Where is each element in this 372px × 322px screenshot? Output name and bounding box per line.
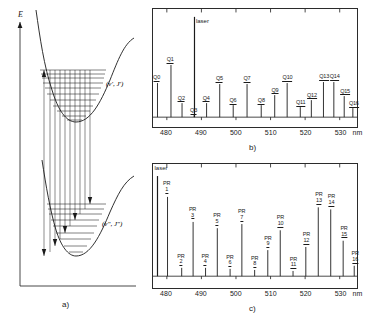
peak-number: Q12 <box>307 93 317 100</box>
peak-number: Q9 <box>271 88 278 95</box>
peak-label: PR6 <box>226 255 233 268</box>
panel-c-axis-labels: 480490500510520530nm <box>152 290 358 304</box>
panel-a-caption: a) <box>62 300 69 309</box>
peak-label: Q11 <box>296 100 305 107</box>
peak-label: PR8 <box>251 256 258 269</box>
peak-label: PR9 <box>264 236 271 249</box>
peak-label: PR1 <box>163 181 170 194</box>
peak-label: PR12 <box>303 232 310 245</box>
peak-number: Q8 <box>258 98 265 105</box>
x-tick-label: 520 <box>300 290 312 297</box>
peak-number: 5 <box>216 219 219 226</box>
peak-number: 8 <box>253 261 256 268</box>
panel-a-potential-curves: (v', J') (v", J") <box>14 8 140 294</box>
peak-label: Q0 <box>153 75 160 82</box>
peak-number: 14 <box>329 200 335 207</box>
peak-number: 9 <box>266 241 269 248</box>
peak-number: 11 <box>291 262 296 269</box>
peak-number: 10 <box>278 221 284 228</box>
peak-number: 13 <box>316 198 322 205</box>
x-tick-label: 530 <box>335 290 347 297</box>
pr-branch-spectrum-svg <box>153 164 357 288</box>
x-tick-label: 500 <box>230 129 242 136</box>
peak-number: 16 <box>352 257 358 264</box>
peak-number: Q11 <box>296 100 305 107</box>
x-axis-unit-label: nm <box>353 290 363 297</box>
peak-label: Q10 <box>283 75 293 82</box>
peak-label: PR5 <box>213 213 220 226</box>
peak-label: Q13 <box>319 74 329 81</box>
q-branch-spectrum-svg <box>153 9 357 127</box>
peak-number: Q13 <box>319 74 329 81</box>
x-tick-label: 520 <box>300 129 312 136</box>
peak-number: Q15 <box>340 89 350 96</box>
energy-axis-label: E <box>18 10 23 19</box>
peak-number: 1 <box>165 187 168 194</box>
x-tick-label: 490 <box>195 290 207 297</box>
x-tick-label: 510 <box>265 290 277 297</box>
peak-label: Q1 <box>167 57 174 64</box>
peak-number: Q0 <box>153 75 160 82</box>
transition-arrowheads <box>42 70 92 256</box>
peak-number: Q7 <box>244 76 251 83</box>
peak-label: PR11 <box>290 257 297 270</box>
x-tick-label: 490 <box>195 129 207 136</box>
peak-label: Q9 <box>271 88 278 95</box>
peak-label: PR3 <box>189 207 196 220</box>
potential-curve-svg: (v', J') (v", J") <box>14 8 140 294</box>
panel-b-q-branch-spectrum <box>152 8 358 128</box>
x-axis-unit-label: nm <box>353 129 363 136</box>
peak-number: 12 <box>303 238 309 245</box>
peak-number: Q4 <box>203 96 210 103</box>
peak-number: Q10 <box>283 75 293 82</box>
peak-number: 4 <box>204 259 207 266</box>
peak-label: Q14 <box>330 74 340 81</box>
absorption-arrowhead <box>42 70 46 77</box>
peak-label: Q2 <box>178 96 185 103</box>
peak-label: PR13 <box>315 192 322 205</box>
x-tick-label: 530 <box>335 129 347 136</box>
laser-line-label: laser <box>155 165 168 171</box>
peak-number: Q16 <box>349 101 359 108</box>
peak-label: PR15 <box>340 226 347 239</box>
peak-number: Q1 <box>167 57 174 64</box>
transition-lines <box>44 70 90 256</box>
energy-axis-arrowhead <box>18 22 23 28</box>
peak-number: 2 <box>180 259 183 266</box>
panel-b-caption: b) <box>249 143 256 152</box>
x-tick-label: 480 <box>160 129 172 136</box>
peak-label: PR7 <box>238 209 245 222</box>
panel-b-axis-labels: 480490500510520530nm <box>152 129 358 143</box>
peak-number: Q6 <box>230 98 237 105</box>
peak-number: Q14 <box>330 74 340 81</box>
peak-number: Q3 <box>190 108 197 115</box>
laser-line-label: laser <box>196 18 209 24</box>
x-tick-label: 510 <box>265 129 277 136</box>
peak-label: Q6 <box>230 98 237 105</box>
peak-number: 6 <box>228 260 231 267</box>
upper-state-label: (v', J') <box>106 80 124 88</box>
peak-number: 7 <box>240 215 243 222</box>
peak-label: Q4 <box>203 96 210 103</box>
x-tick-label: 480 <box>160 290 172 297</box>
peak-label: PR10 <box>277 215 284 228</box>
peak-label: Q7 <box>244 76 251 83</box>
figure-root: (v', J') (v", J") E a) laserQ0Q1Q2Q3Q4Q5… <box>0 0 372 322</box>
panel-c-caption: c) <box>249 304 256 313</box>
peak-number: 3 <box>191 213 194 220</box>
peak-number: 15 <box>341 232 347 239</box>
panel-c-pr-branch-spectrum <box>152 163 358 289</box>
peak-label: Q3 <box>190 108 197 115</box>
peak-label: Q5 <box>216 76 223 83</box>
peak-label: PR4 <box>201 254 208 267</box>
peak-label: Q8 <box>258 98 265 105</box>
peak-label: PR14 <box>328 194 335 207</box>
peak-number: Q2 <box>178 96 185 103</box>
peak-label: Q15 <box>340 89 350 96</box>
peak-label: Q16 <box>349 101 359 108</box>
peak-number: Q5 <box>216 76 223 83</box>
x-tick-label: 500 <box>230 290 242 297</box>
peak-label: Q12 <box>307 93 317 100</box>
peak-label: PR16 <box>352 251 359 264</box>
peak-label: PR2 <box>177 254 184 267</box>
